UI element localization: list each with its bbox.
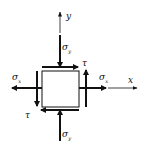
sigma-y-bottom-label: σy — [62, 129, 71, 142]
stress-element-square — [42, 71, 79, 107]
sigma-y-top-label: σy — [62, 42, 71, 55]
tau-top-right-label: τ — [82, 58, 88, 68]
tau-bottom-left-label: τ — [25, 110, 31, 120]
y-axis-label: y — [65, 11, 72, 21]
x-axis-label: x — [128, 75, 133, 85]
sigma-x-left-label: σx — [12, 72, 21, 84]
sigma-x-right-label: σx — [99, 72, 108, 84]
stress-element-diagram: y x σy σy σx σx τ τ — [0, 0, 145, 150]
